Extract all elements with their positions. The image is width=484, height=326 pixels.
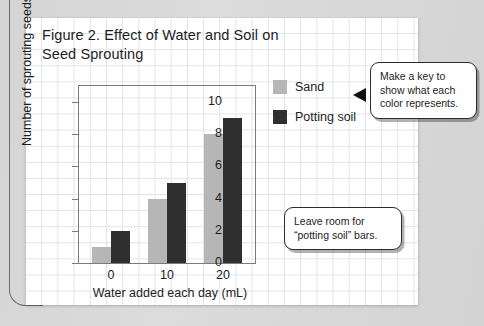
callout-leave-room: Leave room for “potting soil” bars.	[284, 207, 402, 250]
y-axis-tick-4: 4	[192, 191, 222, 205]
bar-potting-soil-10	[167, 183, 186, 263]
bar-sand-0	[92, 247, 111, 263]
y-axis-tickmark-10	[72, 102, 78, 103]
callout-make-a-key: Make a key to show what each color repre…	[370, 62, 477, 119]
x-axis-label: Water added each day (mL)	[60, 286, 280, 300]
bar-group-10	[148, 86, 186, 263]
y-axis-tickmark-8	[72, 134, 78, 135]
legend-label-potting-soil: Potting soil	[295, 110, 356, 124]
bar-potting-soil-20	[223, 118, 242, 263]
bar-potting-soil-0	[111, 231, 130, 263]
y-axis-tick-8: 8	[192, 126, 222, 140]
legend-swatch-potting-soil-icon	[273, 110, 287, 124]
y-axis-tick-0: 0	[192, 255, 222, 269]
legend-label-sand: Sand	[295, 80, 324, 94]
legend-item-potting-soil: Potting soil	[273, 110, 356, 124]
y-axis-label: Number of sprouting seeds	[20, 0, 34, 146]
callout-pointer-triangle-icon	[353, 88, 366, 102]
legend-item-sand: Sand	[273, 80, 356, 94]
y-axis-tick-2: 2	[192, 223, 222, 237]
y-axis-tick-6: 6	[192, 158, 222, 172]
legend-swatch-sand-icon	[273, 80, 287, 94]
bar-sand-10	[148, 199, 167, 263]
y-axis-tickmark-0	[72, 263, 78, 264]
x-axis-tick-20: 20	[203, 268, 243, 282]
y-axis-tickmark-4	[72, 199, 78, 200]
y-axis-tick-10: 10	[192, 94, 222, 108]
y-axis-tickmark-6	[72, 166, 78, 167]
x-axis-tick-0: 0	[91, 268, 131, 282]
y-axis-tickmark-2	[72, 231, 78, 232]
x-axis-tick-10: 10	[147, 268, 187, 282]
bar-group-0	[92, 86, 130, 263]
chart-legend: Sand Potting soil	[273, 80, 356, 140]
figure-title: Figure 2. Effect of Water and Soil on Se…	[42, 26, 292, 63]
bars-layer	[79, 86, 255, 263]
